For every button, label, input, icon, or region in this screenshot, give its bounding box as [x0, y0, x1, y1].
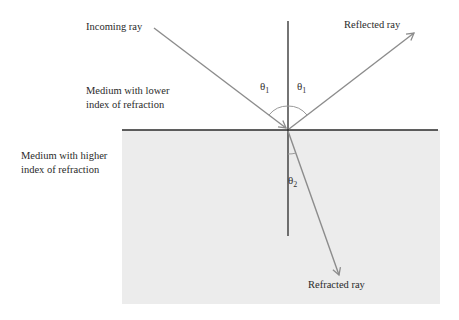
higher-medium-label-line1: Medium with higher: [21, 149, 107, 162]
lower-medium-label-line1: Medium with lower: [86, 84, 169, 97]
reflected-ray-label: Reflected ray: [344, 18, 400, 31]
reflected-ray: [289, 33, 414, 129]
reflected-angle-arc: [288, 106, 307, 115]
incident-angle-label: θ1: [260, 80, 269, 95]
refracted-ray-label: Refracted ray: [308, 278, 365, 291]
higher-index-medium: [122, 130, 440, 304]
higher-medium-label-line2: index of refraction: [21, 163, 99, 176]
lower-medium-label-line2: index of refraction: [86, 98, 164, 111]
incoming-ray: [154, 28, 286, 128]
reflected-angle-label: θ1: [297, 80, 306, 95]
incident-angle-arc: [269, 106, 288, 115]
incoming-ray-label: Incoming ray: [86, 20, 142, 33]
refracted-angle-label: θ2: [288, 174, 297, 189]
